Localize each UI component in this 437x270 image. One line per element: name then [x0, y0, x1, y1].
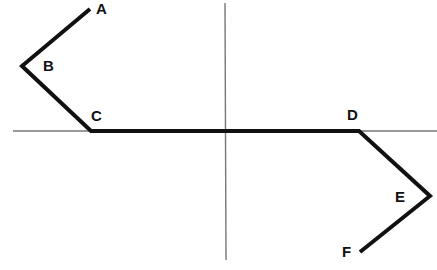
point-label-e: E: [395, 188, 405, 205]
point-label-a: A: [96, 0, 107, 17]
point-label-f: F: [342, 243, 351, 260]
point-label-c: C: [91, 107, 102, 124]
polyline-diagram: A B C D E F: [0, 0, 437, 270]
point-label-b: B: [43, 57, 54, 74]
point-label-d: D: [347, 106, 358, 123]
